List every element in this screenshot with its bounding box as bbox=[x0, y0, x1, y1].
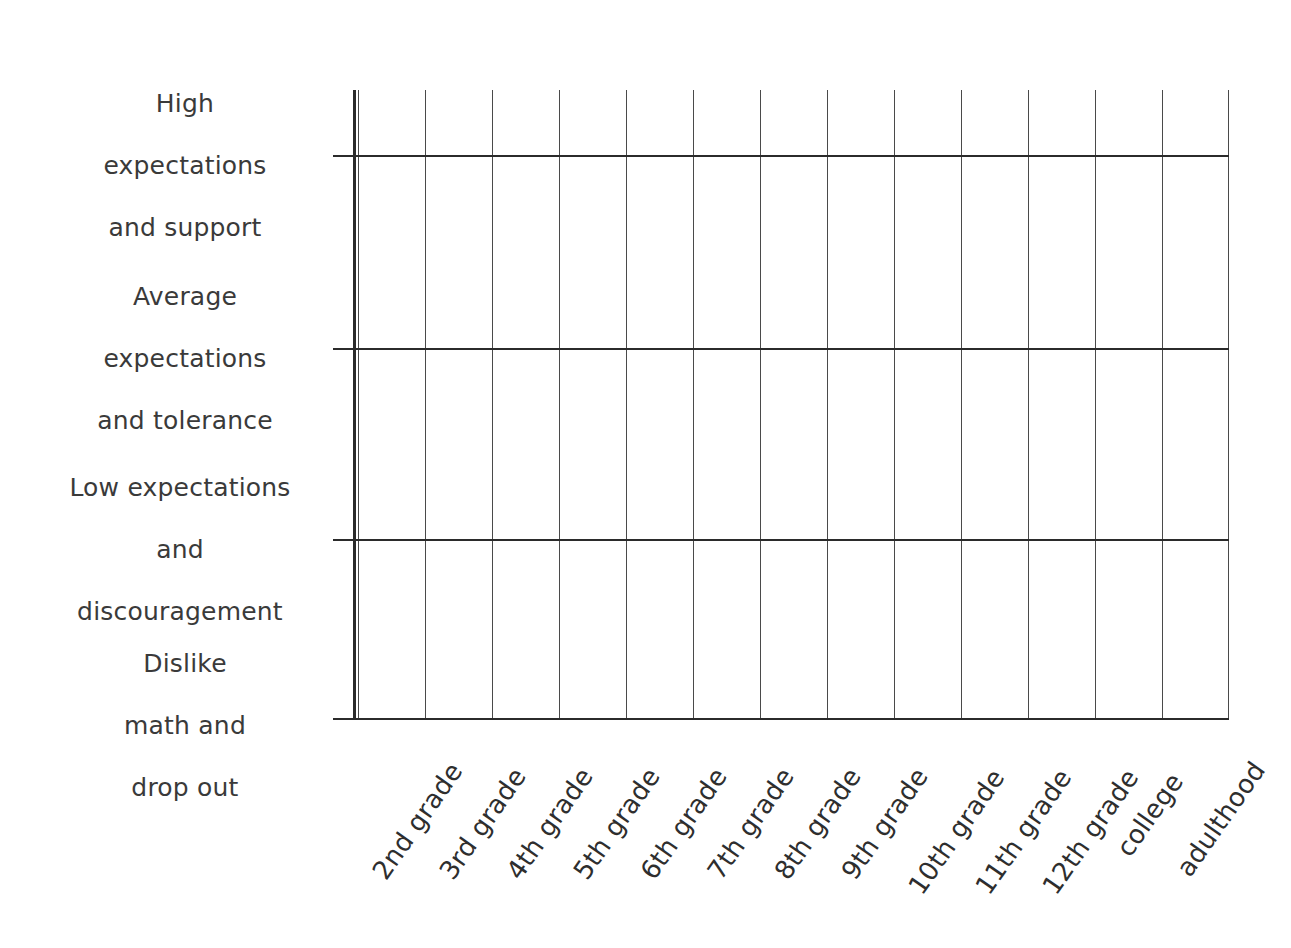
gridline-vertical bbox=[894, 90, 895, 719]
y-axis-label-average-expectations: Average expectations and tolerance bbox=[35, 250, 335, 467]
y-axis-label-dislike-math: Dislike math and drop out bbox=[35, 617, 335, 834]
y-axis-label-line: and tolerance bbox=[35, 405, 335, 436]
y-axis-label-line: math and bbox=[35, 710, 335, 741]
gridline-horizontal-low bbox=[333, 539, 1229, 541]
x-axis-line bbox=[333, 718, 1229, 720]
gridline-vertical bbox=[693, 90, 694, 719]
gridline-vertical bbox=[358, 90, 359, 719]
gridline-vertical bbox=[961, 90, 962, 719]
gridline-vertical bbox=[1028, 90, 1029, 719]
gridline-vertical bbox=[1162, 90, 1163, 719]
x-axis-tick-adulthood[interactable]: adulthood bbox=[1172, 757, 1270, 881]
gridline-vertical bbox=[1228, 90, 1229, 719]
y-axis-label-line: expectations bbox=[35, 343, 335, 374]
y-axis-label-high-expectations: High expectations and support bbox=[35, 57, 335, 274]
y-axis-label-line: Average bbox=[35, 281, 335, 312]
y-axis-label-line: and support bbox=[35, 212, 335, 243]
y-axis-label-line: High bbox=[35, 88, 335, 119]
y-axis-label-line: drop out bbox=[35, 772, 335, 803]
y-axis-label-line: expectations bbox=[35, 150, 335, 181]
y-axis-label-line: Low expectations bbox=[25, 472, 335, 503]
gridline-vertical bbox=[626, 90, 627, 719]
plot-area bbox=[353, 90, 1229, 719]
y-axis-label-line: Dislike bbox=[35, 648, 335, 679]
chart-page: High expectations and support Average ex… bbox=[0, 0, 1291, 948]
gridline-vertical bbox=[827, 90, 828, 719]
gridline-vertical bbox=[760, 90, 761, 719]
gridline-vertical bbox=[492, 90, 493, 719]
gridline-vertical bbox=[1095, 90, 1096, 719]
gridline-horizontal-high bbox=[333, 155, 1229, 157]
y-axis-line bbox=[353, 90, 356, 719]
gridline-vertical bbox=[425, 90, 426, 719]
y-axis-label-line: and bbox=[25, 534, 335, 565]
gridline-horizontal-average bbox=[333, 348, 1229, 350]
gridline-vertical bbox=[559, 90, 560, 719]
